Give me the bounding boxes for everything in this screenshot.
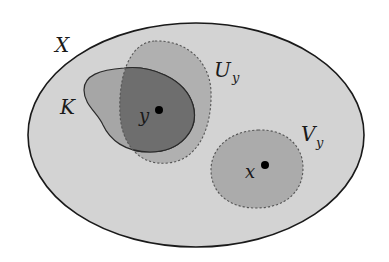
compact-set-k-label: K bbox=[59, 95, 76, 119]
space-x-label: X bbox=[53, 33, 70, 57]
point-x-label: x bbox=[245, 161, 255, 182]
neighborhood-u-y-subscript: y bbox=[231, 70, 240, 85]
point-y-dot bbox=[155, 106, 163, 114]
point-x-dot bbox=[261, 161, 269, 169]
neighborhood-v-y-region bbox=[211, 130, 303, 208]
set-diagram: X K U y V y y x bbox=[0, 0, 389, 262]
diagram-canvas: X K U y V y y x bbox=[0, 0, 389, 262]
point-y-label: y bbox=[138, 105, 150, 126]
neighborhood-u-y-label: U bbox=[214, 58, 232, 82]
neighborhood-v-y-subscript: y bbox=[315, 135, 324, 150]
